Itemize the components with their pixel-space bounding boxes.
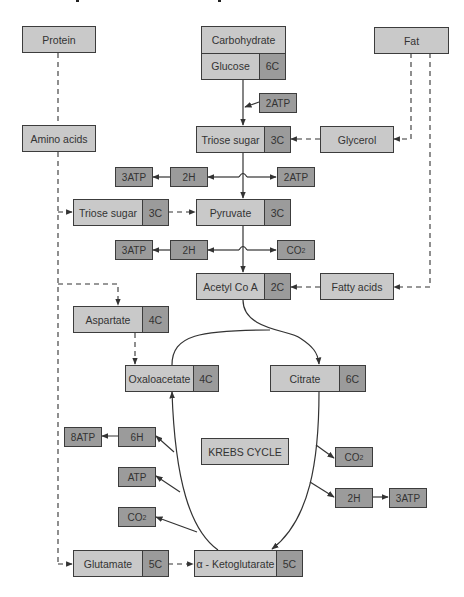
alpha-ketoglutarate-box: α - Ketoglutarate 5C: [194, 550, 303, 577]
krebs-cycle-box: KREBS CYCLE: [201, 438, 289, 465]
acetyl-coa-carbons: 2C: [264, 274, 290, 299]
co2-subscript: 2: [360, 454, 364, 461]
glutamate-box: Glutamate 5C: [73, 550, 169, 577]
triose-sugar-left-carbons: 3C: [142, 200, 168, 225]
krebs-right-3atp-label: 3ATP: [390, 489, 426, 507]
triose-sugar-carbons: 3C: [264, 127, 290, 152]
row2-co2-label: CO2: [278, 241, 314, 259]
dashed-fat-to-fattyacids: [394, 53, 430, 287]
dashed-fat-to-glycerol: [394, 53, 411, 139]
arrow-to-2h-right: [310, 482, 334, 497]
krebs-right-2h-label: 2H: [336, 489, 372, 507]
arrow-to-co2-left: [156, 517, 197, 532]
oxaloacetate-box: Oxaloacetate 4C: [125, 365, 219, 392]
row1-3atp-box: 3ATP: [115, 167, 153, 187]
glucose-carbons: 6C: [259, 54, 285, 80]
dashed-amino-to-aspartate: [58, 284, 118, 305]
glycerol-box: Glycerol: [320, 126, 394, 153]
fatty-acids-box: Fatty acids: [320, 273, 394, 300]
row2-2h-box: 2H: [170, 240, 208, 260]
co2-subscript: 2: [302, 247, 306, 254]
carbohydrate-box: Carbohydrate Glucose 6C: [201, 26, 286, 80]
krebs-8atp-box: 8ATP: [64, 427, 102, 447]
krebs-6h-label: 6H: [119, 428, 155, 446]
pyruvate-box: Pyruvate 3C: [196, 199, 291, 226]
row2-co2-box: CO2: [277, 240, 315, 260]
co2-text: CO: [345, 452, 360, 463]
pyruvate-carbons: 3C: [264, 200, 290, 225]
aspartate-carbons: 4C: [142, 307, 168, 332]
glutamate-label: Glutamate: [74, 551, 142, 576]
acetyl-coa-box: Acetyl Co A 2C: [196, 273, 291, 300]
triose-sugar-left-label: Triose sugar: [74, 200, 142, 225]
protein-box: Protein: [22, 26, 96, 53]
arrow-ketoglutarate-to-oxaloacetate: [172, 392, 218, 550]
alpha-ketoglutarate-carbons: 5C: [276, 551, 302, 576]
row2-2h-label: 2H: [171, 241, 207, 259]
co2-subscript: 2: [143, 514, 147, 521]
oxaloacetate-label: Oxaloacetate: [126, 366, 193, 391]
arrow-to-atp-left: [156, 476, 180, 492]
krebs-8atp-label: 8ATP: [65, 428, 101, 446]
krebs-6h-box: 6H: [118, 427, 156, 447]
carbohydrate-label: Carbohydrate: [202, 27, 285, 53]
fat-box: Fat: [374, 27, 449, 54]
amino-acids-box: Amino acids: [22, 125, 96, 152]
atp-input-label: 2ATP: [260, 94, 296, 112]
acetyl-coa-label: Acetyl Co A: [197, 274, 264, 299]
row1-2atp-box: 2ATP: [277, 167, 315, 187]
arrow-acetylcoa-to-citrate: [243, 300, 319, 364]
row1-2h-box: 2H: [170, 167, 208, 187]
citrate-box: Citrate 6C: [270, 365, 366, 392]
metabolism-diagram: Protein Carbohydrate Glucose 6C Fat 2ATP…: [0, 0, 464, 597]
row2-3atp-label: 3ATP: [116, 241, 152, 259]
krebs-atp-box: ATP: [118, 467, 156, 487]
glucose-label: Glucose: [202, 54, 259, 80]
triose-sugar-left-box: Triose sugar 3C: [73, 199, 169, 226]
row1-3atp-label: 3ATP: [116, 168, 152, 186]
row1-2h-label: 2H: [171, 168, 207, 186]
triose-sugar-box: Triose sugar 3C: [196, 126, 291, 153]
krebs-right-3atp-box: 3ATP: [389, 488, 427, 508]
aspartate-label: Aspartate: [74, 307, 142, 332]
atp-input-box: 2ATP: [259, 93, 297, 113]
co2-text: CO: [287, 245, 302, 256]
krebs-right-2h-box: 2H: [335, 488, 373, 508]
citrate-carbons: 6C: [339, 366, 365, 391]
fat-label: Fat: [375, 28, 448, 53]
aspartate-box: Aspartate 4C: [73, 306, 169, 333]
row2-3atp-box: 3ATP: [115, 240, 153, 260]
oxaloacetate-carbons: 4C: [193, 366, 218, 391]
pyruvate-label: Pyruvate: [197, 200, 264, 225]
krebs-left-co2-label: CO2: [119, 508, 155, 526]
co2-text: CO: [128, 512, 143, 523]
protein-label: Protein: [23, 27, 95, 52]
krebs-right-co2-label: CO2: [336, 448, 372, 466]
arrow-to-co2-right: [316, 445, 334, 458]
arrow-to-6h: [156, 436, 174, 452]
arrow-citrate-to-ketoglutarate: [272, 392, 319, 549]
row1-2atp-label: 2ATP: [278, 168, 314, 186]
krebs-atp-label: ATP: [119, 468, 155, 486]
krebs-right-co2-box: CO2: [335, 447, 373, 467]
glycerol-label: Glycerol: [321, 127, 393, 152]
citrate-label: Citrate: [271, 366, 339, 391]
krebs-cycle-label: KREBS CYCLE: [202, 439, 288, 464]
krebs-left-co2-box: CO2: [118, 507, 156, 527]
alpha-ketoglutarate-label: α - Ketoglutarate: [195, 551, 276, 576]
arrow-2atp-input: [245, 102, 259, 107]
glutamate-carbons: 5C: [142, 551, 168, 576]
amino-acids-label: Amino acids: [23, 126, 95, 151]
triose-sugar-label: Triose sugar: [197, 127, 264, 152]
fatty-acids-label: Fatty acids: [321, 274, 393, 299]
